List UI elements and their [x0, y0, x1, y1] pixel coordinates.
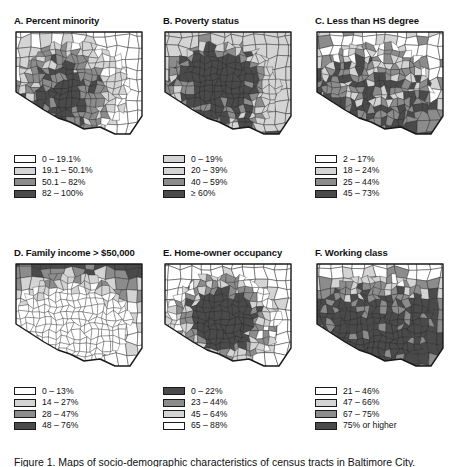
map-outline-e: [163, 262, 293, 382]
census-tract: [191, 116, 200, 126]
census-tract: [345, 117, 352, 124]
map-outline-b: [163, 30, 293, 150]
census-tract: [107, 375, 119, 382]
census-tract: [193, 354, 201, 363]
census-tract: [212, 355, 225, 367]
panel-title-c: C. Less than HS degree: [315, 15, 470, 27]
legend-swatch-s2: [14, 410, 36, 418]
legend-swatch-s2: [14, 178, 36, 186]
census-tract: [277, 45, 288, 56]
census-tract: [72, 363, 86, 378]
census-tract: [62, 123, 74, 131]
legend-swatch-s0: [14, 387, 36, 395]
legend-row: 20 – 39%: [163, 166, 318, 176]
census-tract: [31, 134, 44, 144]
map-panel-b: B. Poverty status 0 – 19%20 – 39%40 – 59…: [163, 15, 318, 199]
census-tract: [265, 146, 277, 150]
legend-label: 65 – 88%: [191, 421, 227, 430]
map-panel-f: F. Working class 21 – 46%47 – 66%67 – 75…: [315, 247, 470, 431]
census-tract: [52, 123, 63, 135]
map-outline-a: [14, 30, 144, 150]
legend-row: 23 – 44%: [163, 398, 318, 408]
legend-swatch-s3: [14, 190, 36, 198]
census-tract: [21, 354, 31, 367]
census-tract: [98, 329, 101, 336]
legend-label: 45 – 73%: [343, 189, 379, 198]
census-tract: [189, 116, 195, 125]
census-tract: [319, 366, 333, 376]
census-tract: [337, 109, 345, 120]
census-tract: [344, 352, 354, 368]
census-tract: [174, 110, 181, 121]
census-tract: [136, 312, 144, 323]
census-tract: [266, 131, 278, 146]
census-tract: [351, 117, 357, 124]
census-tract: [93, 366, 108, 376]
census-tract: [211, 356, 217, 364]
census-tract: [77, 106, 87, 112]
census-tract: [51, 356, 55, 364]
census-tract: [396, 374, 406, 382]
census-tract: [94, 133, 105, 142]
census-tract: [61, 375, 73, 382]
census-tract: [68, 355, 71, 365]
census-tract: [18, 135, 33, 146]
census-tract: [137, 332, 144, 345]
legend-swatch-s3: [14, 422, 36, 430]
census-tract: [315, 146, 321, 150]
census-tract: [18, 144, 33, 150]
legend-row: 0 – 22%: [163, 386, 318, 396]
census-tract: [21, 109, 30, 122]
census-tract: [166, 131, 179, 142]
census-tract: [351, 143, 364, 150]
census-tract: [428, 374, 440, 382]
legend-label: 47 – 66%: [343, 398, 379, 407]
legend-label: 0 – 19.1%: [42, 155, 81, 164]
legend-swatch-s0: [14, 155, 36, 163]
census-tract: [163, 343, 169, 356]
census-tract: [94, 142, 105, 150]
census-tract: [205, 124, 212, 132]
census-tract: [14, 135, 18, 146]
census-tract: [28, 356, 40, 367]
census-tract: [47, 122, 56, 131]
legend-swatch-s1: [14, 167, 36, 175]
legend-row: 65 – 88%: [163, 421, 318, 431]
legend-b: 0 – 19%20 – 39%40 – 59%≥ 60%: [163, 154, 318, 199]
census-tract: [351, 121, 365, 134]
census-tract: [365, 131, 377, 146]
census-tract: [378, 73, 385, 81]
census-tract: [319, 262, 331, 269]
census-tract: [39, 121, 54, 135]
legend-row: 45 – 64%: [163, 409, 318, 419]
census-tract: [189, 144, 201, 150]
map-outline-d: [14, 262, 144, 382]
census-tract: [179, 377, 192, 382]
legend-label: 19.1 – 50.1%: [42, 166, 93, 175]
legend-e: 0 – 22%23 – 44%45 – 64%65 – 88%: [163, 386, 318, 431]
census-tract: [374, 323, 379, 331]
legend-label: 75% or higher: [343, 421, 397, 430]
census-tract: [202, 123, 214, 134]
census-tract: [329, 352, 345, 367]
census-tract: [243, 363, 254, 377]
legend-swatch-s1: [163, 155, 185, 163]
census-tract: [19, 342, 32, 357]
census-tract: [275, 67, 286, 80]
census-tract: [196, 348, 204, 358]
census-tract: [373, 365, 386, 377]
census-tract: [397, 286, 405, 294]
census-tract: [179, 365, 192, 377]
census-tract: [163, 356, 169, 368]
census-tract: [190, 377, 202, 382]
census-tract: [351, 131, 365, 146]
census-tract: [115, 143, 127, 150]
census-tract: [168, 331, 180, 345]
census-tract: [119, 367, 129, 376]
census-tract: [163, 67, 169, 81]
census-tract: [287, 320, 293, 332]
census-tract: [82, 363, 93, 378]
census-tract: [384, 374, 396, 382]
census-tract: [40, 143, 53, 150]
census-tract: [107, 366, 120, 376]
